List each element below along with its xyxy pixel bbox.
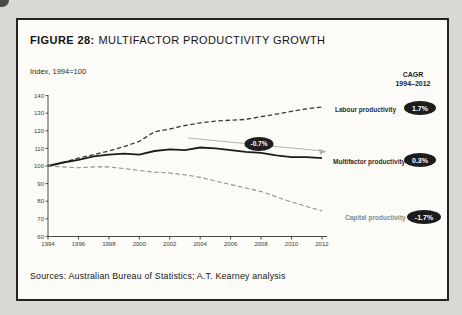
multifactor-productivity-label: Multifactor productivity — [333, 158, 405, 165]
trend-arrow-head — [319, 149, 327, 155]
y-tick-label: 140 — [34, 93, 45, 99]
y-tick-label: 120 — [34, 128, 45, 134]
scan-artifact — [0, 0, 9, 7]
x-tick-label: 2002 — [163, 241, 177, 247]
multifactor-productivity-line — [48, 148, 322, 167]
y-tick-label: 80 — [37, 198, 44, 204]
figure-frame: FIGURE 28:MULTIFACTOR PRODUCTIVITY GROWT… — [16, 18, 449, 301]
multifactor-cagr-badge: 0.3% — [404, 153, 436, 167]
x-tick-label: 2006 — [224, 241, 238, 247]
capital-productivity-label: Capital productivity — [345, 214, 406, 221]
labour-cagr-badge: 1.7% — [404, 101, 436, 115]
capital-cagr-badge: -1.7% — [407, 210, 441, 224]
trend-annotation-value: -0.7% — [251, 140, 268, 147]
y-tick-label: 130 — [34, 110, 45, 116]
x-tick-label: 2008 — [254, 241, 268, 247]
y-tick-label: 60 — [37, 234, 44, 240]
y-tick-label: 90 — [37, 181, 44, 187]
y-tick-label: 100 — [34, 163, 45, 169]
x-tick-label: 1996 — [72, 241, 86, 247]
x-tick-label: 2004 — [194, 241, 208, 247]
labour-productivity-label: Labour productivity — [335, 106, 396, 113]
y-axis: 60708090100110120130140 — [34, 93, 48, 240]
y-tick-label: 70 — [37, 216, 44, 222]
capital-productivity-line — [48, 166, 322, 211]
x-tick-label: 1994 — [41, 241, 55, 247]
x-tick-label: 2012 — [315, 241, 329, 247]
y-tick-label: 110 — [34, 146, 44, 152]
x-tick-label: 2010 — [285, 241, 299, 247]
x-axis: 1994199619982000200220042006200820102012 — [41, 237, 329, 248]
x-tick-label: 2000 — [133, 241, 147, 247]
x-tick-label: 1998 — [102, 241, 116, 247]
sources-note: Sources: Australian Bureau of Statistics… — [30, 271, 286, 281]
